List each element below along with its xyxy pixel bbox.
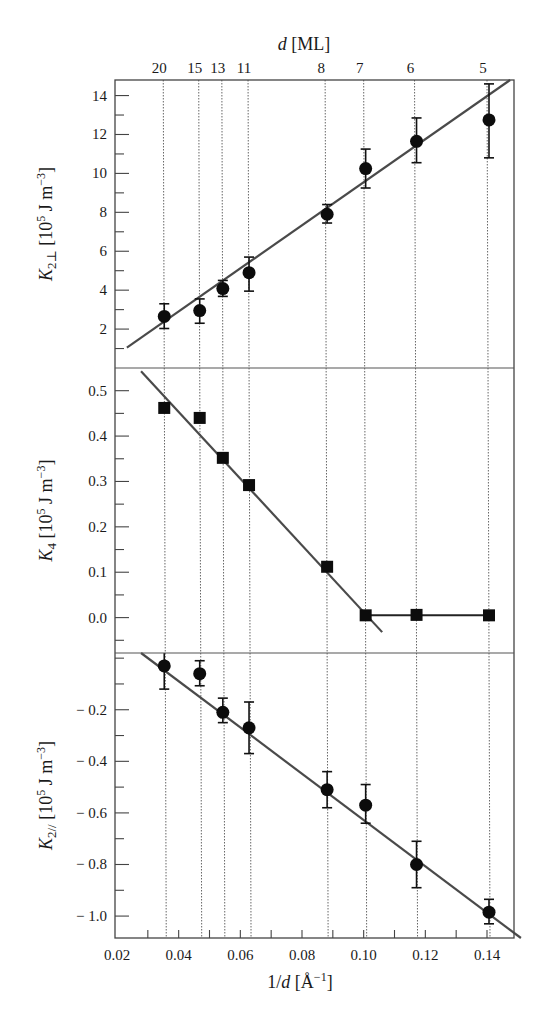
y-axis-title-K2par: K2// [105 J m−3] (34, 741, 59, 851)
y-tick-label: 6 (100, 243, 108, 259)
x-tick-label: 0.02 (104, 947, 130, 963)
fit-line-K4 (141, 371, 382, 632)
y-tick-label: − 0.4 (76, 753, 107, 769)
square-marker-15ml (194, 412, 206, 424)
circle-marker-13ml (216, 706, 229, 719)
guide-line-13ml (222, 80, 225, 938)
y-tick-label: − 0.2 (76, 702, 107, 718)
y-tick-label: 8 (100, 204, 108, 220)
fit-line-K2par (141, 653, 521, 938)
circle-marker-15ml (193, 304, 206, 317)
circle-marker-11ml (243, 266, 256, 279)
y-tick-label: 14 (92, 88, 108, 104)
square-marker-8ml (321, 561, 333, 573)
y-axis-title-K2perp: K2⊥ [105 J m−3] (34, 167, 59, 282)
y-tick-label: 4 (100, 282, 108, 298)
circle-marker-6ml (410, 858, 423, 871)
y-tick-label: 0.5 (88, 383, 107, 399)
x-tick-label: 0.14 (474, 947, 501, 963)
square-marker-20ml (158, 402, 170, 414)
y-tick-label: 0.3 (88, 473, 107, 489)
outer-frame (115, 80, 514, 938)
y-tick-label: − 0.6 (76, 805, 107, 821)
top-axis-title: d [ML] (278, 34, 331, 54)
x-tick-label: 0.10 (351, 947, 377, 963)
circle-marker-20ml (158, 310, 171, 323)
square-marker-11ml (243, 479, 255, 491)
circle-marker-6ml (410, 135, 423, 148)
top-tick-label-11ml: 11 (237, 60, 251, 76)
top-tick-label-7ml: 7 (356, 60, 364, 76)
y-tick-label: 0.1 (88, 564, 107, 580)
square-marker-13ml (217, 452, 229, 464)
top-tick-label-13ml: 13 (210, 60, 225, 76)
square-marker-6ml (411, 609, 423, 621)
y-tick-label: 10 (92, 165, 107, 181)
top-tick-label-6ml: 6 (407, 60, 415, 76)
x-tick-label: 0.04 (166, 947, 193, 963)
circle-marker-11ml (243, 721, 256, 734)
y-tick-label: − 1.0 (76, 908, 107, 924)
y-tick-label: 0.0 (88, 610, 107, 626)
fit-line-K2perp (127, 80, 510, 348)
chart-canvas: 2468101214K2⊥ [105 J m−3]0.00.10.20.30.4… (0, 0, 549, 1014)
guide-line-11ml (248, 80, 251, 938)
circle-marker-8ml (321, 783, 334, 796)
circle-marker-7ml (359, 799, 372, 812)
circle-marker-8ml (321, 208, 334, 221)
guide-line-5ml (487, 80, 490, 938)
circle-marker-13ml (216, 282, 229, 295)
axis-labels: 2468101214K2⊥ [105 J m−3]0.00.10.20.30.4… (34, 34, 501, 992)
x-tick-label: 0.12 (412, 947, 438, 963)
y-tick-label: 0.4 (88, 428, 107, 444)
guide-line-20ml (163, 80, 166, 938)
circle-marker-5ml (483, 113, 496, 126)
guide-line-6ml (415, 80, 418, 938)
top-tick-label-8ml: 8 (317, 60, 325, 76)
top-tick-label-20ml: 20 (152, 60, 167, 76)
square-marker-5ml (483, 609, 495, 621)
square-marker-7ml (360, 609, 372, 621)
top-tick-label-5ml: 5 (479, 60, 487, 76)
circle-marker-20ml (158, 659, 171, 672)
y-tick-label: 12 (92, 126, 107, 142)
axis-ticks (115, 96, 487, 938)
circle-marker-15ml (193, 667, 206, 680)
x-tick-label: 0.08 (289, 947, 315, 963)
y-tick-label: 0.2 (88, 519, 107, 535)
top-tick-label-15ml: 15 (187, 60, 202, 76)
y-tick-label: − 0.8 (76, 856, 107, 872)
x-tick-label: 0.06 (227, 947, 254, 963)
circle-marker-5ml (483, 906, 496, 919)
plot-frame (115, 80, 514, 938)
y-tick-label: 2 (100, 321, 108, 337)
anisotropy-figure: 2468101214K2⊥ [105 J m−3]0.00.10.20.30.4… (0, 0, 549, 1014)
x-axis-title: 1/d [Å−1] (267, 970, 332, 992)
guide-line-15ml (199, 80, 202, 938)
circle-marker-7ml (359, 162, 372, 175)
y-axis-title-K4: K4 [105 J m−3] (34, 460, 59, 563)
